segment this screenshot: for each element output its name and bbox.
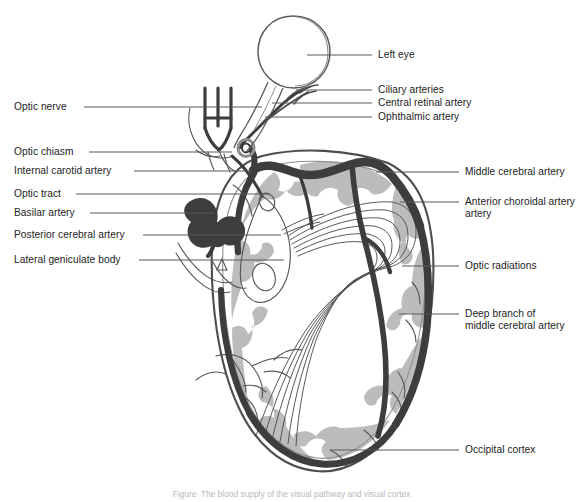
eye-globe: [234, 16, 330, 152]
optic-chiasm-and-nerves: [205, 88, 231, 150]
label-left-eye: Left eye: [378, 49, 415, 61]
label-lateral-geniculate-body: Lateral geniculate body: [14, 254, 121, 266]
label-occipital-cortex: Occipital cortex: [465, 444, 535, 456]
label-middle-cerebral-artery: Middle cerebral artery: [465, 166, 565, 178]
figure-root: Optic nerveOptic chiasmInternal carotid …: [0, 0, 583, 502]
label-deep-branch-mca: Deep branch of middle cerebral artery: [465, 308, 565, 333]
label-ciliary-arteries: Ciliary arteries: [378, 84, 444, 96]
label-internal-carotid-artery: Internal carotid artery: [14, 165, 111, 177]
label-optic-tract: Optic tract: [14, 188, 61, 200]
figure-caption: Figure The blood supply of the visual pa…: [0, 489, 583, 502]
label-optic-nerve: Optic nerve: [14, 101, 67, 113]
label-central-retinal-artery: Central retinal artery: [378, 97, 471, 109]
label-optic-chiasm: Optic chiasm: [14, 146, 73, 158]
label-basilar-artery: Basilar artery: [14, 207, 75, 219]
label-anterior-choroidal-artery: Anterior choroidal artery artery: [465, 196, 575, 221]
label-posterior-cerebral-artery: Posterior cerebral artery: [14, 229, 125, 241]
label-ophthalmic-artery: Ophthalmic artery: [378, 111, 459, 123]
anatomy-diagram: [0, 0, 583, 502]
label-optic-radiations: Optic radiations: [465, 260, 537, 272]
